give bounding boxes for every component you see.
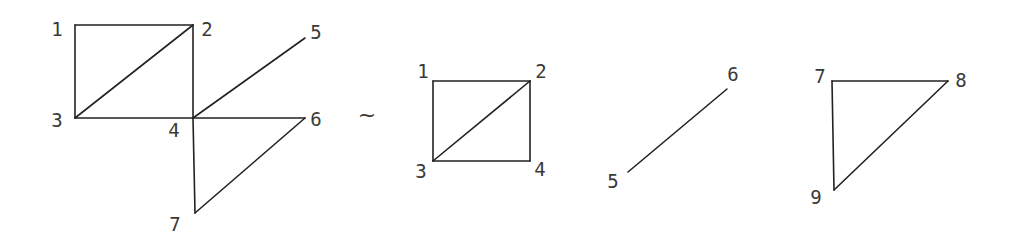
labels-layer: 1234567123456789 bbox=[51, 18, 966, 235]
node-label-9: 9 bbox=[810, 186, 821, 208]
node-label-8: 8 bbox=[955, 69, 966, 91]
equivalence-symbol: ~ bbox=[358, 102, 376, 127]
edge-8-9 bbox=[834, 81, 948, 190]
edge-6-7 bbox=[195, 118, 305, 213]
edge-2-3 bbox=[433, 81, 530, 161]
node-label-6: 6 bbox=[310, 108, 321, 130]
node-label-3: 3 bbox=[51, 109, 62, 131]
graph-diagram: 1234567123456789 ~ bbox=[0, 0, 1015, 236]
node-label-5: 5 bbox=[310, 21, 321, 43]
node-label-5: 5 bbox=[607, 170, 618, 192]
node-label-4: 4 bbox=[168, 119, 179, 141]
edge-7-9 bbox=[832, 81, 834, 190]
node-label-7: 7 bbox=[814, 65, 825, 87]
edge-2-3 bbox=[75, 25, 193, 118]
node-label-2: 2 bbox=[201, 18, 212, 40]
node-label-4: 4 bbox=[534, 158, 545, 180]
block-segment bbox=[628, 89, 727, 172]
node-label-2: 2 bbox=[535, 60, 546, 82]
node-label-7: 7 bbox=[169, 213, 180, 235]
node-label-1: 1 bbox=[51, 18, 62, 40]
original-graph bbox=[75, 25, 305, 213]
block-square bbox=[433, 81, 530, 161]
node-label-1: 1 bbox=[417, 60, 428, 82]
edge-4-7 bbox=[193, 118, 195, 213]
block-triangle bbox=[832, 81, 948, 190]
node-label-6: 6 bbox=[727, 63, 738, 85]
edge-4-5 bbox=[193, 38, 305, 118]
node-label-3: 3 bbox=[415, 160, 426, 182]
edge-5-6 bbox=[628, 89, 727, 172]
